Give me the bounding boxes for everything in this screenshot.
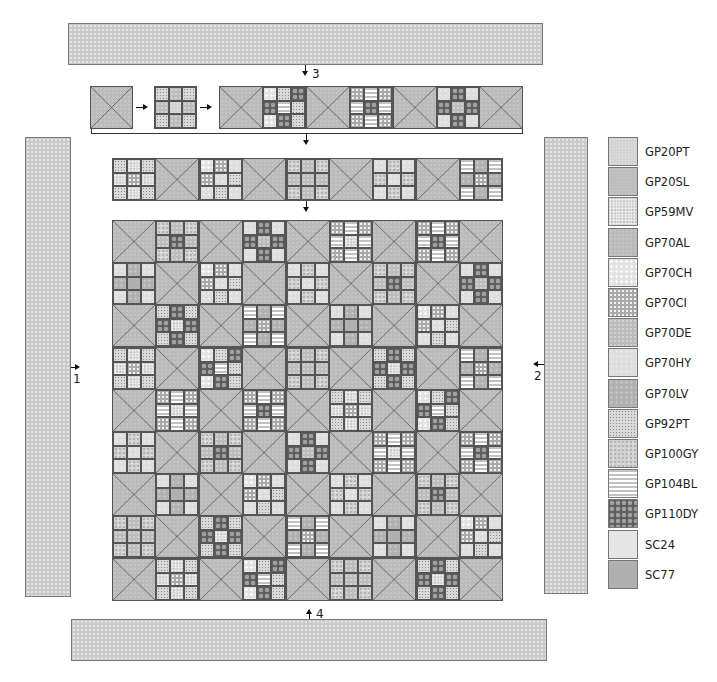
patch-square [287,446,301,460]
nine-patch-block [372,515,416,558]
patch-square [127,263,141,277]
patch-square [243,586,257,600]
x-block [479,86,523,129]
patch-square [373,159,387,173]
patch-square [488,516,502,530]
patch-square [113,277,127,291]
patch-square [141,530,155,544]
patch-square [330,319,344,333]
patch-square [387,277,401,291]
patch-square [156,474,170,488]
nine-patch-block [459,262,503,305]
patch-square [287,348,301,362]
nine-patch-block [416,304,460,347]
patch-square [257,586,271,600]
patch-square [214,277,228,291]
patch-square [301,516,315,530]
patch-square [141,516,155,530]
patch-square [271,221,285,235]
patch-square [287,159,301,173]
nine-patch-block [416,558,460,601]
patch-square [488,432,502,446]
patch-square [401,362,415,376]
patch-square [445,221,459,235]
patch-square [200,432,214,446]
patch-square [364,114,378,128]
patch-square [184,248,198,262]
patch-square [301,186,315,200]
x-block [372,220,416,263]
patch-square [387,173,401,187]
nine-patch-block [436,86,480,129]
patch-square [228,173,242,187]
patch-square [315,290,329,304]
legend-item: GP59MV [608,197,717,227]
patch-square [373,290,387,304]
fabric-code-label: GP59MV [645,205,693,219]
patch-square [301,375,315,389]
patch-square [445,248,459,262]
x-block [155,158,199,201]
x-block [372,389,416,432]
step-1-label: 1 [73,373,81,385]
patch-square [315,459,329,473]
patch-square [271,390,285,404]
patch-square [315,530,329,544]
x-block [329,158,373,201]
fabric-code-label: GP70CI [645,296,687,310]
patch-square [287,362,301,376]
patch-square [431,573,445,587]
patch-square [214,159,228,173]
nine-patch-block [262,86,306,129]
patch-square [401,459,415,473]
patch-square [401,543,415,557]
patch-square [228,362,242,376]
patch-square [488,173,502,187]
legend-item: SC24 [608,530,717,560]
nine-patch-block [372,158,416,201]
patch-square [287,173,301,187]
x-block [199,304,243,347]
patch-square [141,362,155,376]
x-block [286,304,330,347]
patch-square [271,417,285,431]
patch-square [378,87,392,101]
patch-square [431,586,445,600]
patch-square [344,248,358,262]
x-block [393,86,437,129]
patch-square [344,501,358,515]
patch-square [127,530,141,544]
patch-square [169,101,183,115]
patch-square [373,543,387,557]
patch-square [113,459,127,473]
patch-square [113,446,127,460]
nine-patch-block [329,220,373,263]
legend-item: GP70CI [608,288,717,318]
patch-square [431,248,445,262]
patch-square [431,319,445,333]
patch-square [170,390,184,404]
nine-patch-block [199,158,243,201]
nine-patch-block [112,262,156,305]
patch-square [228,263,242,277]
patch-square [387,362,401,376]
patch-square [170,404,184,418]
patch-square [387,516,401,530]
patch-square [228,277,242,291]
patch-square [287,290,301,304]
patch-square [417,586,431,600]
patch-square [257,332,271,346]
patch-square [488,186,502,200]
patch-square [277,87,291,101]
patch-square [113,516,127,530]
nine-patch-block [199,262,243,305]
patch-square [141,173,155,187]
fabric-swatch [608,258,638,287]
patch-square [437,101,451,115]
patch-square [271,404,285,418]
x-block [329,431,373,474]
patch-square [417,332,431,346]
legend-item: GP20SL [608,167,717,197]
patch-square [373,263,387,277]
nine-patch-block [459,431,503,474]
